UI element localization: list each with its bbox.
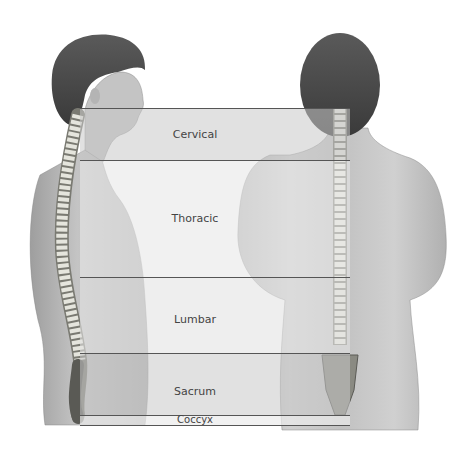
label-lumbar: Lumbar bbox=[174, 313, 216, 326]
region-band-sacrum bbox=[80, 353, 350, 415]
region-band-coccyx bbox=[80, 415, 350, 426]
spine-regions-diagram: Cervical Thoracic Lumbar Sacrum Coccyx bbox=[0, 0, 468, 460]
label-cervical: Cervical bbox=[173, 128, 217, 141]
label-sacrum: Sacrum bbox=[174, 385, 216, 398]
label-coccyx: Coccyx bbox=[177, 414, 213, 425]
label-thoracic: Thoracic bbox=[172, 212, 219, 225]
